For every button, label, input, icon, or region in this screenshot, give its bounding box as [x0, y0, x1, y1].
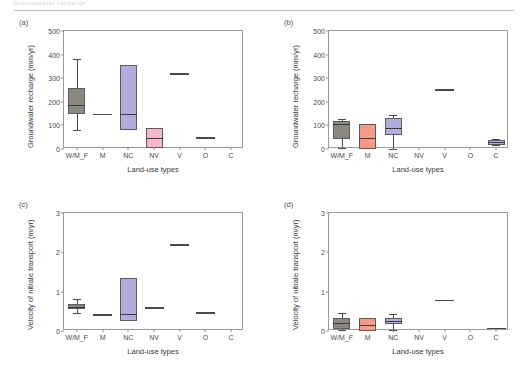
box-plot-cap-upper: [338, 119, 346, 120]
x-tick-label: V: [177, 152, 182, 159]
x-tick-mark: [154, 329, 155, 332]
x-axis-title: Land-use types: [127, 347, 178, 356]
x-tick-label: NV: [414, 334, 424, 341]
x-tick-label: M: [365, 152, 371, 159]
x-tick-label: NV: [149, 152, 159, 159]
y-tick-label: 1: [321, 288, 325, 295]
box-plot-cap-lower: [73, 130, 81, 131]
box-plot-cap-upper: [73, 299, 81, 300]
box-plot-cap-lower: [73, 313, 81, 314]
x-tick-label: M: [100, 152, 106, 159]
y-tick-mark: [326, 149, 329, 150]
x-tick-label: V: [177, 334, 182, 341]
y-axis-title: Velocity of nitrate transport (m/yr): [291, 220, 300, 330]
x-tick-mark: [393, 147, 394, 150]
box-plot-box: [68, 88, 85, 114]
panel-a: (a) 0100200300400500W/M_FMNCNVVOCLand-us…: [0, 14, 265, 196]
y-tick-mark: [61, 78, 64, 79]
y-tick-label: 400: [48, 51, 60, 58]
panel-a-label: (a): [19, 18, 28, 27]
x-tick-label: NC: [123, 334, 133, 341]
y-axis-title: Velocity of nitrate transport (m/yr): [26, 220, 35, 330]
x-tick-label: O: [203, 152, 208, 159]
x-tick-mark: [367, 147, 368, 150]
y-tick-mark: [61, 31, 64, 32]
box-plot-box: [120, 65, 137, 130]
y-tick-mark: [326, 31, 329, 32]
box-plot-median: [488, 142, 505, 143]
y-tick-mark: [61, 213, 64, 214]
x-tick-label: NV: [149, 334, 159, 341]
box-plot-median: [68, 307, 85, 308]
box-plot-median: [120, 314, 137, 315]
x-tick-mark: [231, 147, 232, 150]
y-tick-label: 200: [313, 98, 325, 105]
box-plot-box: [385, 118, 402, 135]
x-axis-title: Land-use types: [392, 165, 443, 174]
x-tick-mark: [102, 329, 103, 332]
x-tick-mark: [444, 147, 445, 150]
panel-d: (d) 0123W/M_FMNCNVVOCLand-use types Velo…: [265, 196, 530, 378]
x-tick-mark: [154, 147, 155, 150]
x-tick-mark: [205, 329, 206, 332]
header-rule: [14, 10, 514, 11]
box-plot-median: [385, 128, 402, 129]
box-plot-single-value: [93, 114, 112, 116]
y-tick-label: 100: [48, 122, 60, 129]
x-tick-label: C: [494, 152, 499, 159]
x-tick-label: C: [494, 334, 499, 341]
box-plot-median: [333, 323, 350, 324]
y-tick-mark: [326, 101, 329, 102]
box-plot-whisker-upper: [77, 59, 78, 89]
box-plot-single-value: [196, 312, 215, 314]
x-tick-mark: [444, 329, 445, 332]
x-tick-mark: [179, 147, 180, 150]
box-plot-median: [333, 124, 350, 125]
y-tick-label: 1: [56, 288, 60, 295]
x-tick-mark: [128, 329, 129, 332]
panel-a-plot-area: [64, 31, 242, 147]
x-tick-label: V: [442, 152, 447, 159]
box-plot-cap-upper: [389, 115, 397, 116]
y-tick-label: 3: [56, 210, 60, 217]
y-tick-mark: [61, 125, 64, 126]
y-tick-label: 400: [313, 51, 325, 58]
y-tick-mark: [326, 252, 329, 253]
box-plot-median: [359, 325, 376, 326]
y-tick-mark: [61, 54, 64, 55]
y-axis-title: Groundwater recharge (mm/yr): [26, 45, 35, 148]
y-tick-mark: [326, 54, 329, 55]
x-tick-label: C: [229, 152, 234, 159]
x-tick-label: O: [203, 334, 208, 341]
box-plot-cap-upper: [389, 314, 397, 315]
panel-b-plot-area: [329, 31, 507, 147]
x-tick-label: NV: [414, 152, 424, 159]
figure-page: Groundwater recharge (a) 010020030040050…: [0, 0, 531, 380]
box-plot-cap-upper: [338, 313, 346, 314]
panel-d-plot-area: [329, 213, 507, 329]
box-plot-single-value: [435, 89, 454, 91]
x-tick-label: W/M_F: [66, 334, 89, 341]
x-tick-mark: [496, 329, 497, 332]
x-tick-mark: [470, 147, 471, 150]
y-tick-mark: [61, 252, 64, 253]
y-tick-mark: [61, 331, 64, 332]
panel-d-plot-frame: 0123W/M_FMNCNVVOCLand-use types: [328, 212, 508, 330]
box-plot-single-value: [170, 244, 189, 246]
y-tick-label: 3: [321, 210, 325, 217]
x-tick-mark: [341, 329, 342, 332]
x-tick-mark: [205, 147, 206, 150]
y-tick-label: 300: [313, 75, 325, 82]
x-tick-label: W/M_F: [331, 152, 354, 159]
box-plot-single-value: [170, 73, 189, 75]
x-tick-mark: [179, 329, 180, 332]
x-tick-label: NC: [388, 152, 398, 159]
y-tick-label: 2: [56, 249, 60, 256]
y-tick-label: 500: [48, 28, 60, 35]
y-tick-mark: [61, 101, 64, 102]
panel-c-plot-area: [64, 213, 242, 329]
box-plot-single-value: [145, 307, 164, 309]
x-tick-label: W/M_F: [66, 152, 89, 159]
panel-b-plot-frame: 0100200300400500W/M_FMNCNVVOCLand-use ty…: [328, 30, 508, 148]
x-tick-label: M: [100, 334, 106, 341]
